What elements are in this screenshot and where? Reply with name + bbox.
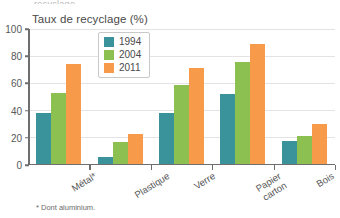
bar-2004-1 — [113, 142, 128, 165]
bar-1994-4 — [282, 141, 297, 165]
x-tick-mark-end — [335, 165, 336, 170]
y-axis-labels: 020406080100 — [0, 29, 26, 165]
bar-2011-2 — [189, 68, 204, 165]
y-axis-line — [28, 29, 30, 165]
bar-2011-3 — [250, 44, 265, 165]
plot-area — [28, 29, 335, 165]
x-axis-label-3: Papiercarton — [254, 171, 288, 203]
legend-item-2004: 2004 — [104, 50, 141, 60]
cropped-headline-remnant: recyclage — [34, 0, 104, 4]
bar-2004-3 — [235, 62, 250, 165]
x-axis-label-2: Verre — [192, 171, 217, 192]
chart-legend: 199420042011 — [98, 32, 150, 78]
x-axis-labels: Métal*PlastiqueVerrePapiercartonBois — [28, 165, 335, 207]
y-tick-label-60: 60 — [11, 78, 22, 89]
legend-label: 2011 — [119, 63, 141, 73]
legend-swatch-icon — [104, 37, 114, 47]
bar-group — [274, 29, 335, 165]
chart-page: recyclage Taux de recyclage (%) 02040608… — [0, 0, 340, 218]
y-tick-label-100: 100 — [5, 24, 22, 35]
y-tick-label-80: 80 — [11, 51, 22, 62]
bar-1994-2 — [159, 113, 174, 165]
legend-swatch-icon — [104, 50, 114, 60]
bar-group — [212, 29, 273, 165]
x-axis-label-0: Métal* — [70, 171, 98, 194]
bar-2011-4 — [312, 124, 327, 165]
bar-2011-1 — [128, 134, 143, 165]
y-tick-label-40: 40 — [11, 105, 22, 116]
bar-group — [28, 29, 89, 165]
bar-2004-2 — [174, 85, 189, 165]
bar-1994-0 — [36, 113, 51, 165]
bar-groups — [28, 29, 335, 165]
legend-swatch-icon — [104, 63, 114, 73]
bar-2004-0 — [51, 93, 66, 165]
legend-label: 2004 — [119, 50, 141, 60]
bar-2004-4 — [297, 136, 312, 165]
y-tick-label-20: 20 — [11, 132, 22, 143]
chart-footnote: * Dont aluminium. — [36, 203, 95, 212]
x-axis-label-1: Plastique — [133, 171, 172, 201]
bar-2011-0 — [66, 64, 81, 165]
legend-item-1994: 1994 — [104, 37, 141, 47]
x-axis-label-4: Bois — [314, 171, 335, 190]
bar-1994-3 — [220, 94, 235, 165]
legend-item-2011: 2011 — [104, 63, 141, 73]
legend-label: 1994 — [119, 37, 141, 47]
bar-group — [151, 29, 212, 165]
y-tick-label-0: 0 — [16, 160, 22, 171]
chart-title: Taux de recyclage (%) — [32, 13, 148, 25]
